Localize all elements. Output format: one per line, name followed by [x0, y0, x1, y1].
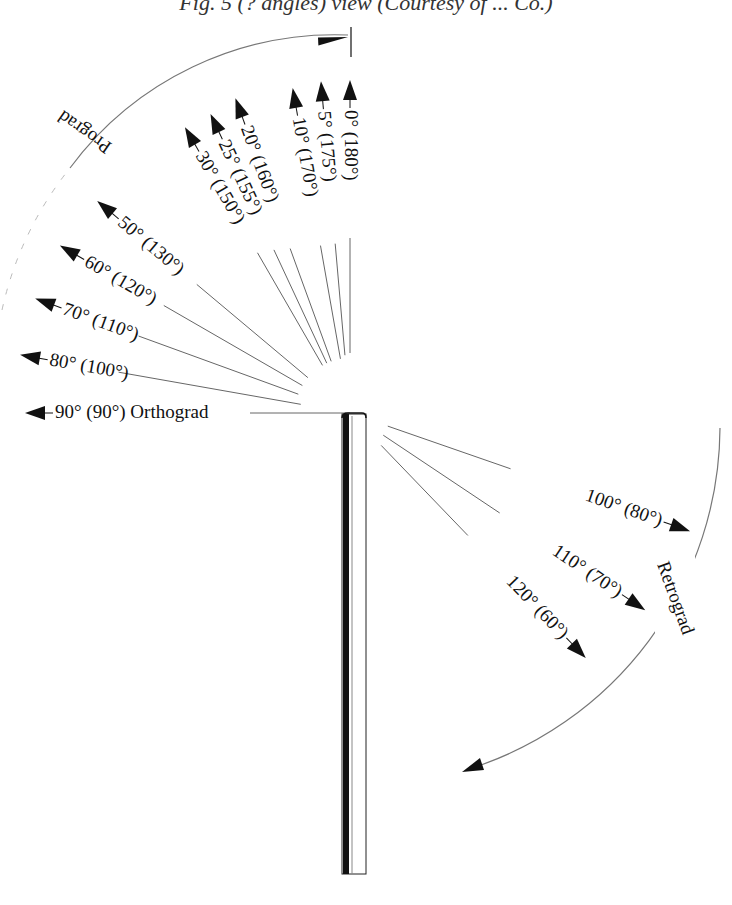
retrograd-arc: Retrograd: [462, 428, 720, 772]
ray-line: [274, 250, 327, 363]
arrow-icon: [33, 292, 57, 312]
arrow-icon: [229, 96, 249, 120]
arrow-icon: [56, 239, 80, 261]
arrow-icon: [314, 81, 330, 102]
arrow-icon: [204, 111, 225, 135]
ray-label: 90° (90°) Orthograd: [55, 401, 209, 423]
ray-label: 60° (120°): [81, 250, 161, 309]
angle-diagram: Prograd Retrograd 0° (180°)5° (175°)10° …: [0, 0, 732, 905]
retrograd-arrow-icon: [462, 758, 484, 772]
ray-line: [164, 306, 303, 386]
ray-label: 110° (70°): [548, 540, 626, 602]
ray-line: [388, 426, 511, 469]
ray-line: [119, 372, 301, 404]
arrow-icon: [179, 124, 201, 148]
ray-line: [381, 445, 468, 535]
ray-5: 5° (175°): [311, 80, 345, 355]
ray-line: [383, 435, 499, 513]
ray-label: 100° (80°): [583, 484, 666, 531]
ray-70: 70° (110°): [32, 287, 299, 394]
ray-label: 80° (100°): [48, 349, 131, 385]
ray-90: 90° (90°) Orthograd: [25, 401, 350, 423]
prograd-arrow-icon: [318, 36, 348, 46]
arrow-icon: [19, 348, 41, 365]
post: [342, 413, 366, 874]
arrow-icon: [343, 80, 357, 100]
arrow-icon: [625, 593, 649, 616]
ray-20: 20° (160°): [226, 94, 332, 361]
arrow-icon: [93, 196, 117, 220]
ray-0: 0° (180°): [340, 80, 362, 353]
ray-line: [320, 246, 340, 359]
ray-label: 70° (110°): [60, 298, 142, 346]
ray-label: 120° (60°): [502, 571, 573, 644]
ray-line: [258, 253, 323, 366]
ray-line: [139, 336, 299, 394]
arrow-icon: [669, 518, 692, 538]
ray-80: 80° (100°): [18, 343, 300, 404]
arrow-icon: [286, 87, 303, 109]
arrow-icon: [25, 406, 45, 420]
ray-label: 0° (180°): [340, 110, 362, 181]
ray-100: 100° (80°): [388, 426, 694, 541]
